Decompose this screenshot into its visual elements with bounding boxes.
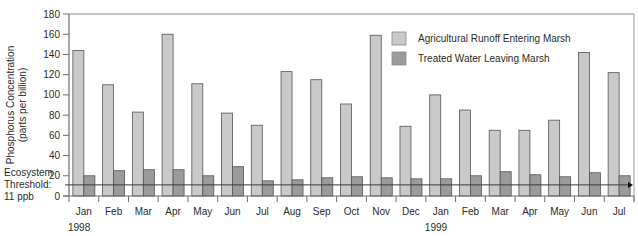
treated-bar xyxy=(352,177,363,196)
treated-bar xyxy=(470,176,481,196)
x-tick-label: Jun xyxy=(224,206,240,217)
treated-bar xyxy=(322,178,333,196)
x-tick-label: Feb xyxy=(462,206,480,217)
x-tick-label: May xyxy=(550,206,569,217)
x-axis: JanFebMarAprMayJunJulAugSepOctNovDecJanF… xyxy=(63,196,634,233)
x-tick-label: Aug xyxy=(283,206,301,217)
legend-swatch-treated xyxy=(392,52,406,65)
x-tick-label: Sep xyxy=(313,206,331,217)
treated-bar xyxy=(560,177,571,196)
treated-bar xyxy=(381,178,392,196)
runoff-bar xyxy=(519,130,530,196)
y-axis-title-line: Phosphorus Concentration xyxy=(5,46,16,164)
runoff-bar xyxy=(400,126,411,196)
y-tick-label: 60 xyxy=(49,130,61,141)
y-tick-label: 120 xyxy=(43,69,60,80)
runoff-bar xyxy=(608,73,619,196)
runoff-bar xyxy=(341,104,352,196)
treated-bar xyxy=(411,179,422,196)
x-tick-label: Mar xyxy=(135,206,153,217)
runoff-bar xyxy=(578,52,589,196)
y-tick-label: 160 xyxy=(43,29,60,40)
x-tick-label: Jun xyxy=(581,206,597,217)
runoff-bar xyxy=(192,84,203,196)
y-tick-label: 180 xyxy=(43,9,60,20)
treated-bar xyxy=(114,171,125,196)
treated-bar xyxy=(500,172,511,196)
y-tick-label: 140 xyxy=(43,49,60,60)
treated-bar xyxy=(589,173,600,196)
x-tick-label: Feb xyxy=(105,206,123,217)
runoff-bar xyxy=(132,112,143,196)
phosphorus-bar-chart: Phosphorus Concentration(parts per billi… xyxy=(0,0,638,236)
x-tick-label: Apr xyxy=(522,206,538,217)
y-tick-label: 80 xyxy=(49,110,61,121)
runoff-bar xyxy=(251,125,262,196)
legend: Agricultural Runoff Entering MarshTreate… xyxy=(392,32,571,65)
legend-label-runoff: Agricultural Runoff Entering Marsh xyxy=(418,33,571,44)
treated-bar xyxy=(203,176,214,196)
x-tick-label: Jan xyxy=(76,206,92,217)
runoff-bar xyxy=(430,95,441,196)
treated-bar xyxy=(262,181,273,196)
x-tick-label: Dec xyxy=(402,206,420,217)
treated-bar xyxy=(173,170,184,196)
year-label: 1998 xyxy=(68,222,91,233)
y-tick-label: 100 xyxy=(43,89,60,100)
runoff-bar xyxy=(281,72,292,196)
treated-bar xyxy=(143,170,154,196)
runoff-bar xyxy=(370,35,381,196)
legend-label-treated: Treated Water Leaving Marsh xyxy=(418,53,550,64)
treated-bar xyxy=(84,176,95,196)
y-axis-title: Phosphorus Concentration(parts per billi… xyxy=(5,46,28,164)
runoff-bar xyxy=(459,110,470,196)
y-axis-title-line: (parts per billion) xyxy=(17,68,28,142)
x-tick-label: Jul xyxy=(613,206,626,217)
y-tick-label: 40 xyxy=(49,150,61,161)
treated-bar xyxy=(530,175,541,196)
treated-bar xyxy=(441,179,452,196)
runoff-bar xyxy=(222,113,233,196)
threshold-label-line: 11 ppb xyxy=(4,191,34,202)
x-tick-label: Jul xyxy=(256,206,269,217)
threshold-label-line: Threshold: xyxy=(4,179,51,190)
runoff-bar xyxy=(73,50,84,196)
y-tick-label: 0 xyxy=(54,191,60,202)
threshold-label-line: Ecosystem xyxy=(4,167,53,178)
x-tick-label: Oct xyxy=(344,206,360,217)
treated-bar xyxy=(292,180,303,196)
x-tick-label: Apr xyxy=(165,206,181,217)
runoff-bar xyxy=(489,130,500,196)
treated-bar xyxy=(233,167,244,196)
runoff-bar xyxy=(103,85,114,196)
legend-swatch-runoff xyxy=(392,32,406,45)
x-tick-label: Mar xyxy=(492,206,510,217)
x-tick-label: May xyxy=(193,206,212,217)
runoff-bar xyxy=(311,80,322,196)
x-tick-label: Jan xyxy=(433,206,449,217)
x-tick-label: Nov xyxy=(372,206,390,217)
year-label: 1999 xyxy=(425,222,448,233)
runoff-bar xyxy=(162,34,173,196)
